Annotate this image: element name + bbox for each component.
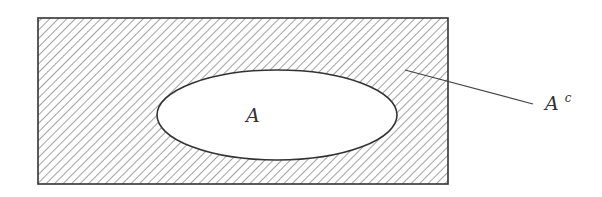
complement-label-base: A [543,92,559,114]
set-a-ellipse [157,70,397,160]
complement-label: A c [543,91,572,114]
set-a-label: A [244,104,260,126]
venn-diagram: A A c [0,0,602,197]
complement-label-sup: c [565,91,572,105]
